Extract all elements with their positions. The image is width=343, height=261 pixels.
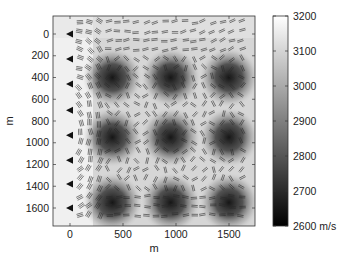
colorbar-tick-label: 2900 (293, 115, 317, 127)
colorbar: 3200310030002900280027002600 m/s (273, 10, 336, 232)
x-tick-label: 0 (67, 228, 73, 240)
velocity-model-figure: 050010001500 020040060080010001200140016… (0, 0, 343, 261)
colorbar-tick-label: 2700 (293, 185, 317, 197)
colorbar-tick-label: 3000 (293, 80, 317, 92)
y-tick-label: 1600 (26, 202, 50, 214)
heatmap-area (53, 16, 259, 233)
y-tick-label: 200 (31, 49, 49, 61)
colorbar-tick-label: 2600 m/s (293, 220, 336, 232)
colorbar-tick-label: 3200 (293, 10, 317, 22)
x-tick-label: 1000 (164, 228, 188, 240)
y-axis-label: m (3, 116, 15, 125)
x-axis-label: m (149, 242, 158, 254)
colorbar-tick-label: 2800 (293, 150, 317, 162)
y-tick-label: 800 (31, 115, 49, 127)
y-tick-label: 1000 (26, 136, 50, 148)
y-tick-label: 1200 (26, 158, 50, 170)
y-tick-label: 600 (31, 93, 49, 105)
y-tick-label: 1400 (26, 180, 50, 192)
y-tick-label: 400 (31, 71, 49, 83)
colorbar-tick-label: 3100 (293, 45, 317, 57)
x-tick-label: 1500 (217, 228, 241, 240)
x-tick-label: 500 (114, 228, 132, 240)
y-tick-label: 0 (43, 28, 49, 40)
